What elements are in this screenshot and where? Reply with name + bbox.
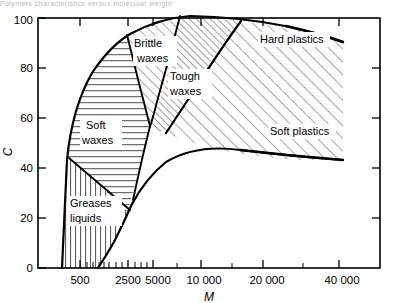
svg-text:500: 500 — [70, 274, 89, 286]
svg-text:waxes: waxes — [169, 85, 202, 97]
svg-text:0: 0 — [27, 262, 33, 274]
svg-text:60: 60 — [20, 112, 33, 124]
polymer-classification-chart: Greases liquids Soft waxes Brittle waxes… — [0, 0, 394, 303]
svg-text:100: 100 — [14, 14, 33, 26]
svg-text:Greases: Greases — [70, 197, 112, 209]
svg-text:40 000: 40 000 — [324, 274, 359, 286]
region-label-soft-plastics: Soft plastics — [268, 124, 336, 139]
y-axis-tick-labels: 0 20 40 60 80 100 — [14, 14, 33, 274]
svg-text:20 000: 20 000 — [249, 274, 284, 286]
svg-text:waxes: waxes — [81, 134, 114, 146]
svg-text:5000: 5000 — [145, 274, 171, 286]
svg-text:waxes: waxes — [136, 52, 169, 64]
region-label-tough-waxes: Tough waxes — [168, 69, 212, 99]
region-label-soft-waxes: Soft waxes — [80, 118, 122, 148]
svg-text:Soft plastics: Soft plastics — [270, 125, 330, 137]
x-axis-title: M — [204, 290, 214, 303]
region-label-hard-plastics: Hard plastics — [258, 32, 330, 47]
svg-text:Brittle: Brittle — [134, 37, 162, 49]
svg-text:Tough: Tough — [170, 70, 200, 82]
x-axis-tick-labels: 500 2500 5000 10 000 20 000 40 000 — [70, 274, 359, 286]
svg-text:Hard plastics: Hard plastics — [260, 33, 324, 45]
svg-text:20: 20 — [20, 212, 33, 224]
region-label-greases-liquids: Greases liquids — [68, 196, 122, 226]
svg-text:Soft: Soft — [86, 119, 106, 131]
svg-text:40: 40 — [20, 162, 33, 174]
region-label-brittle-waxes: Brittle waxes — [133, 36, 177, 66]
svg-text:80: 80 — [20, 62, 33, 74]
svg-text:10 000: 10 000 — [186, 274, 221, 286]
y-axis-title: C — [1, 147, 15, 156]
svg-text:liquids: liquids — [70, 212, 102, 224]
svg-text:2500: 2500 — [115, 274, 141, 286]
